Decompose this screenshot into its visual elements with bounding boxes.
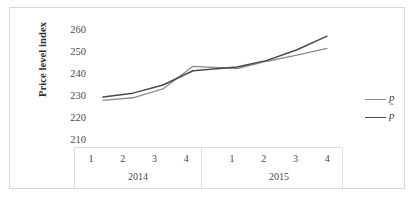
x-axis-quarter-label: 2 [111, 153, 135, 164]
y-axis-tick-labels: 260250240230220210 [56, 23, 86, 147]
x-axis-quarter-row: 1234 [216, 148, 342, 170]
y-axis-tick-220: 220 [70, 113, 86, 123]
y-axis-tick-260: 260 [70, 25, 86, 35]
y-axis-tick-210: 210 [70, 135, 86, 145]
chart-legend: pp [365, 91, 414, 127]
legend-swatch-icon [365, 117, 386, 118]
x-axis-quarter-label: 3 [283, 153, 307, 164]
plot-area [88, 24, 342, 146]
x-axis-year-label: 2015 [216, 171, 342, 182]
series-lines [88, 24, 342, 146]
y-axis-tick-250: 250 [70, 47, 86, 57]
y-axis-title: Price level index [37, 5, 48, 115]
legend-item-2: p [365, 109, 414, 127]
x-axis-quarter-label: 1 [79, 153, 103, 164]
x-axis-quarter-label: 3 [142, 153, 166, 164]
x-axis-year-label: 2014 [75, 171, 201, 182]
x-axis-quarter-label: 4 [315, 153, 339, 164]
figure-frame: Price level index 260250240230220210 123… [9, 7, 405, 189]
x-axis-year-group-2014: 12342014 [75, 148, 202, 188]
y-axis-tick-240: 240 [70, 69, 86, 79]
legend-swatch-icon [365, 99, 386, 100]
chart-figure: Price level index 260250240230220210 123… [0, 0, 414, 199]
x-axis-year-group-2015: 12342015 [216, 148, 343, 188]
x-axis-quarter-label: 1 [220, 153, 244, 164]
x-axis-quarter-row: 1234 [75, 148, 201, 170]
x-axis-quarter-label: 2 [252, 153, 276, 164]
x-axis-table: 1234201412342015 [74, 147, 342, 189]
y-axis-tick-230: 230 [70, 91, 86, 101]
x-axis-quarter-label: 4 [174, 153, 198, 164]
series-line-2 [103, 36, 327, 97]
legend-label: p [389, 109, 395, 121]
